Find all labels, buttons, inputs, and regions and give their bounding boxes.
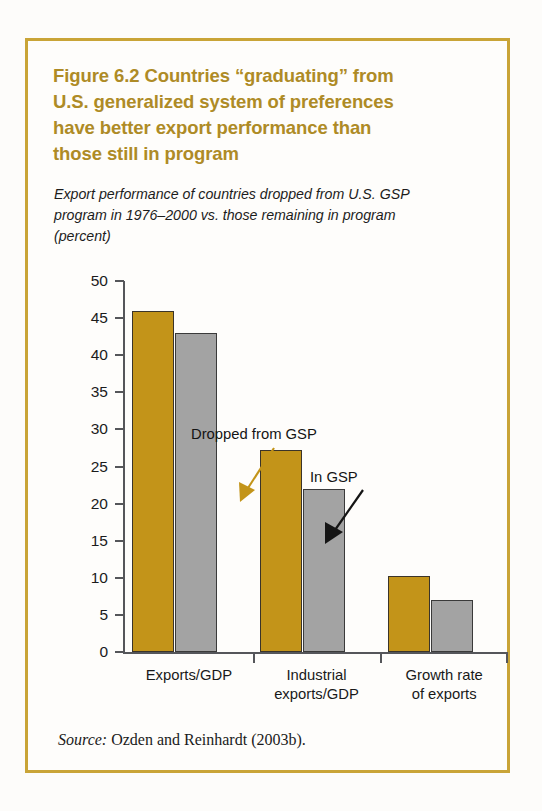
- source-citation: Ozden and Reinhardt (2003b).: [107, 731, 306, 748]
- x-axis-line: [123, 652, 508, 654]
- y-axis-tick: [115, 651, 124, 653]
- annotation-dropped-from-gsp: Dropped from GSP: [191, 426, 317, 442]
- y-axis-tick: [115, 317, 124, 319]
- y-axis-tick-label: 50: [58, 273, 108, 289]
- figure-frame: Figure 6.2 Countries “graduating” from U…: [25, 38, 510, 773]
- figure-title: Figure 6.2 Countries “graduating” from U…: [53, 63, 483, 167]
- figure-title-line-2: U.S. generalized system of preferences: [53, 89, 483, 115]
- source-keyword: Source:: [58, 731, 107, 748]
- y-axis-tick-label: 15: [58, 533, 108, 549]
- figure-subtitle-line-1: Export performance of countries dropped …: [54, 184, 474, 205]
- y-axis-tick: [115, 614, 124, 616]
- y-axis-tick: [115, 391, 124, 393]
- x-axis-tick: [253, 654, 255, 663]
- x-axis-tick: [380, 654, 382, 663]
- y-axis-tick: [115, 503, 124, 505]
- y-axis-tick: [115, 577, 124, 579]
- y-axis-tick-label: 40: [58, 347, 108, 363]
- y-axis-tick-label: 0: [58, 644, 108, 660]
- category-label-line: of exports: [368, 685, 520, 704]
- y-axis-tick: [115, 428, 124, 430]
- y-axis-tick-label: 35: [58, 384, 108, 400]
- figure-title-line-4: those still in program: [53, 141, 483, 167]
- y-axis-tick-label: 5: [58, 607, 108, 623]
- y-axis-tick-label: 25: [58, 459, 108, 475]
- category-label-line: Growth rate: [368, 666, 520, 685]
- bar-exports-gdp-in-gsp: [175, 333, 217, 652]
- figure-subtitle-line-3: (percent): [54, 226, 474, 247]
- y-axis-tick-label: 45: [58, 310, 108, 326]
- bar-growth-rate-of-exports-dropped-from-gsp: [388, 576, 430, 652]
- y-axis-tick: [115, 540, 124, 542]
- y-axis-tick-label: 10: [58, 570, 108, 586]
- figure-subtitle: Export performance of countries dropped …: [54, 184, 474, 247]
- figure-title-line-3: have better export performance than: [53, 115, 483, 141]
- annotation-arrow-black: [313, 486, 373, 548]
- y-axis-tick: [115, 280, 124, 282]
- figure-title-line-1: Figure 6.2 Countries “graduating” from: [53, 63, 483, 89]
- bar-chart-plot-area: 05101520253035404550 Exports/GDPIndustri…: [58, 266, 508, 706]
- y-axis-tick-label: 20: [58, 496, 108, 512]
- figure-page: Figure 6.2 Countries “graduating” from U…: [0, 0, 542, 811]
- annotation-arrow-gold: [228, 444, 288, 506]
- annotation-in-gsp: In GSP: [310, 469, 358, 485]
- x-axis-tick: [506, 654, 508, 663]
- y-axis-tick: [115, 466, 124, 468]
- figure-subtitle-line-2: program in 1976–2000 vs. those remaining…: [54, 205, 474, 226]
- bar-exports-gdp-dropped-from-gsp: [132, 311, 174, 652]
- y-axis-line: [123, 281, 125, 654]
- y-axis-tick-label: 30: [58, 421, 108, 437]
- y-axis-tick: [115, 354, 124, 356]
- bar-growth-rate-of-exports-in-gsp: [431, 600, 473, 652]
- category-label-3: Growth rateof exports: [368, 666, 520, 704]
- figure-source: Source: Ozden and Reinhardt (2003b).: [58, 731, 306, 749]
